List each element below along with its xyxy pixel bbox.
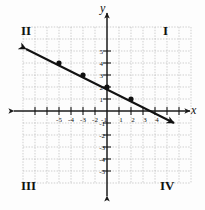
y-tick-label: 1 — [100, 96, 104, 104]
x-tick-label: -3 — [80, 116, 86, 124]
data-point — [56, 60, 61, 65]
y-tick-label: 3 — [100, 72, 104, 80]
quadrant-label-iii: III — [21, 179, 36, 192]
y-tick-label: -2 — [99, 132, 105, 140]
quadrant-label-ii: II — [21, 24, 31, 37]
data-point — [80, 72, 85, 77]
x-tick-label: 1 — [119, 116, 123, 124]
y-tick-labels: 5 4 3 2 1 -1 -2 -3 -4 -5 — [99, 48, 105, 176]
coordinate-plane-figure: -5 -4 -3 -2 -1 1 2 3 4 5 4 3 2 1 -1 -2 -… — [0, 0, 205, 210]
y-tick-label: -5 — [99, 168, 105, 176]
x-tick-label: 3 — [143, 116, 147, 124]
y-tick-label: -1 — [99, 120, 105, 128]
y-tick-label: 5 — [100, 48, 104, 56]
y-tick-label: 4 — [100, 60, 104, 68]
data-point — [128, 96, 133, 101]
x-tick-label: 2 — [131, 116, 135, 124]
y-tick-label: -4 — [99, 156, 105, 164]
x-tick-label: -2 — [92, 116, 98, 124]
x-axis-label: x — [191, 104, 196, 116]
x-tick-label: 4 — [155, 116, 159, 124]
quadrant-label-iv: IV — [160, 179, 174, 192]
y-axis-label: y — [100, 2, 105, 14]
x-tick-label: -5 — [56, 116, 62, 124]
data-point — [104, 84, 109, 89]
x-tick-label: -4 — [68, 116, 74, 124]
y-tick-label: -3 — [99, 144, 105, 152]
quadrant-label-i: I — [163, 24, 168, 37]
